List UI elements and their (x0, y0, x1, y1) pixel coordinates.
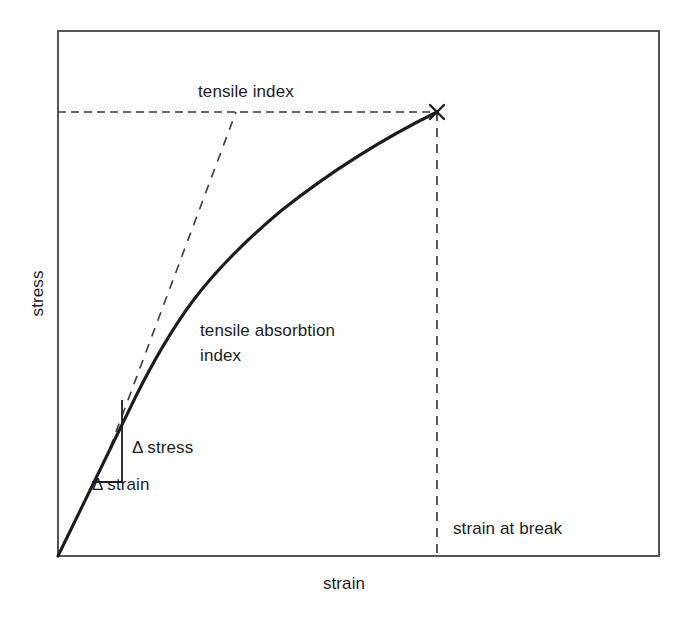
delta-stress-label: Δ stress (132, 437, 193, 460)
delta-strain-label: Δ strain (92, 474, 150, 497)
stress-strain-figure: tensile index tensile absorbtion index s… (0, 0, 688, 621)
tensile-absorption-index-label: tensile absorbtion index (200, 318, 335, 368)
strain-at-break-label: strain at break (453, 518, 562, 541)
y-axis-label: stress (27, 243, 50, 343)
tensile-absorption-line-1: tensile absorbtion (200, 318, 335, 343)
x-axis-label: strain (0, 573, 688, 596)
tensile-absorption-line-2: index (200, 343, 335, 368)
diagram-canvas (0, 0, 688, 621)
tensile-index-label: tensile index (198, 81, 294, 104)
